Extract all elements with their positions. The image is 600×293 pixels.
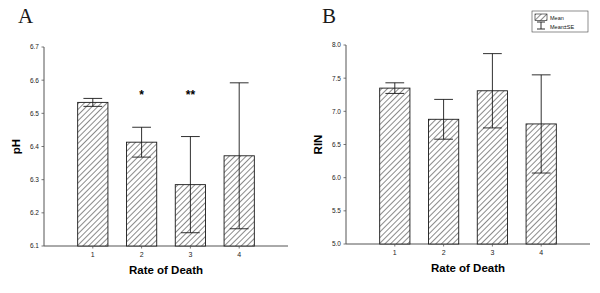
- legend: MeanMean±SE: [532, 11, 588, 32]
- legend-swatch-mean: [535, 14, 547, 21]
- panel-a-plot: 6.16.26.36.46.56.66.7pH12*3**4Rate of De…: [0, 0, 300, 293]
- significance-marker: *: [139, 88, 144, 102]
- x-tick-label: 3: [188, 251, 192, 258]
- y-tick-label: 6.5: [332, 141, 341, 148]
- bar: [126, 142, 156, 246]
- x-tick-label: 4: [237, 251, 241, 258]
- y-tick-label: 6.6: [30, 77, 39, 84]
- bar: [380, 88, 410, 244]
- x-tick-label: 2: [140, 251, 144, 258]
- y-tick-label: 5.5: [332, 207, 341, 214]
- figure-container: A 6.16.26.36.46.56.66.7pH12*3**4Rate of …: [0, 0, 600, 293]
- y-tick-label: 8.0: [332, 41, 341, 48]
- panel-b: B 5.05.56.06.57.07.58.0RIN1234Rate of De…: [300, 0, 600, 293]
- legend-label-mean-se: Mean±SE: [550, 24, 574, 30]
- y-tick-label: 6.7: [30, 43, 39, 50]
- y-tick-label: 6.2: [30, 209, 39, 216]
- x-tick-label: 1: [91, 251, 95, 258]
- y-tick-label: 6.0: [332, 174, 341, 181]
- y-axis-title: pH: [10, 139, 22, 154]
- panel-a: A 6.16.26.36.46.56.66.7pH12*3**4Rate of …: [0, 0, 300, 293]
- x-tick-label: 4: [539, 249, 543, 256]
- y-tick-label: 5.0: [332, 240, 341, 247]
- x-tick-label: 2: [442, 249, 446, 256]
- x-tick-label: 1: [393, 249, 397, 256]
- y-tick-label: 7.5: [332, 75, 341, 82]
- significance-marker: **: [186, 88, 196, 102]
- y-tick-label: 6.5: [30, 110, 39, 117]
- legend-label-mean: Mean: [550, 15, 564, 21]
- y-axis-title: RIN: [312, 135, 324, 155]
- y-tick-label: 6.4: [30, 143, 39, 150]
- y-tick-label: 6.1: [30, 242, 39, 249]
- y-tick-label: 7.0: [332, 108, 341, 115]
- panel-b-plot: 5.05.56.06.57.07.58.0RIN1234Rate of Deat…: [300, 0, 600, 293]
- x-axis-title: Rate of Death: [129, 264, 203, 276]
- bar: [78, 102, 108, 246]
- x-axis-title: Rate of Death: [431, 262, 505, 274]
- y-tick-label: 6.3: [30, 176, 39, 183]
- x-tick-label: 3: [490, 249, 494, 256]
